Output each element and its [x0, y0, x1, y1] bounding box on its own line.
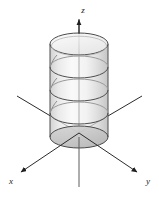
figure-container: z x y [0, 0, 159, 197]
axis-label-x: x [8, 176, 13, 186]
axis-label-y: y [145, 176, 150, 186]
cylinder-axes-diagram: z x y [0, 0, 159, 197]
cylinder-top-cap-group [50, 33, 108, 56]
axis-label-z: z [80, 5, 85, 15]
